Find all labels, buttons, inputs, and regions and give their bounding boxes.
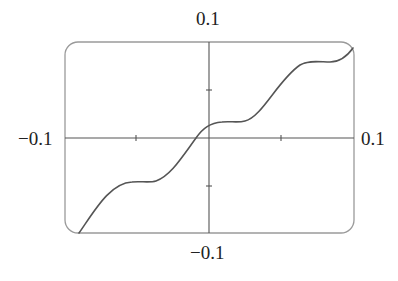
plot-area	[0, 0, 398, 281]
x-max-label: 0.1	[361, 129, 385, 148]
data-curve	[79, 48, 353, 233]
y-min-label: −0.1	[190, 243, 224, 262]
y-max-label: 0.1	[196, 9, 220, 28]
x-min-label: −0.1	[18, 129, 52, 148]
